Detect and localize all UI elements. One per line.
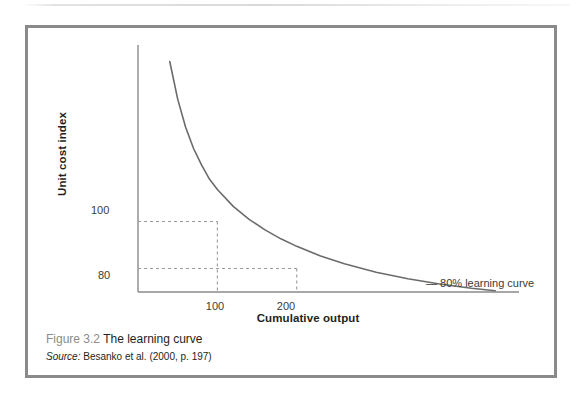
curve-label-text: 80% learning curve	[440, 277, 534, 289]
figure-source: Source: Besanko et al. (2000, p. 197)	[46, 349, 466, 364]
source-label: Source:	[46, 351, 80, 362]
y-tick-label-100: 100	[91, 204, 109, 216]
source-text: Besanko et al. (2000, p. 197)	[83, 351, 211, 362]
curve-label-dash: —	[426, 277, 437, 289]
figure-caption-block: Figure 3.2 The learning curve Source: Be…	[46, 331, 466, 364]
curve-label-annotation: — 80% learning curve	[426, 277, 534, 289]
chart-plot-area: Unit cost index Cumulative output 100 80…	[28, 28, 560, 381]
y-axis-title: Unit cost index	[56, 84, 68, 224]
page-top-rule	[22, 4, 570, 6]
y-tick-label-80: 80	[98, 269, 110, 281]
figure-frame: Unit cost index Cumulative output 100 80…	[25, 25, 557, 378]
figure-page: Unit cost index Cumulative output 100 80…	[0, 0, 578, 400]
figure-caption: Figure 3.2 The learning curve	[46, 331, 466, 348]
x-tick-label-200: 200	[269, 300, 303, 312]
figure-number: Figure 3.2	[46, 332, 100, 346]
x-tick-label-100: 100	[198, 300, 232, 312]
x-axis-title: Cumulative output	[178, 312, 438, 324]
figure-title: The learning curve	[103, 332, 202, 346]
learning-curve-path	[170, 61, 495, 290]
